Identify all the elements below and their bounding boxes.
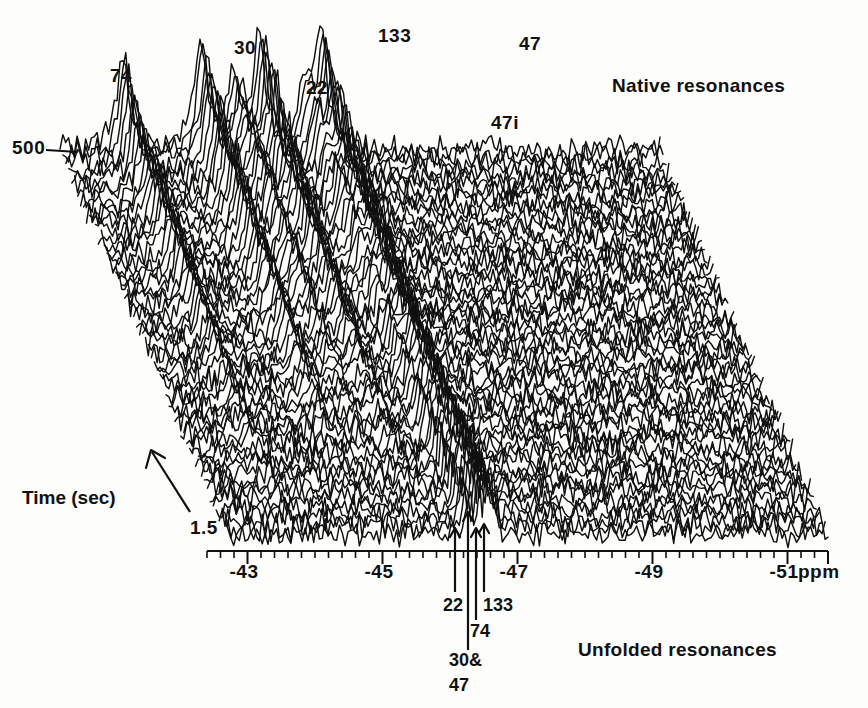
ppm-tick-label-49: -49	[635, 562, 664, 581]
native-peak-label-47i: 47i	[491, 113, 519, 132]
native-peak-label-22: 22	[306, 78, 328, 97]
time-max-tick-label: 500	[12, 138, 45, 157]
native-resonances-annotation: Native resonances	[612, 76, 785, 95]
unfolded-arrow-label-0: 22	[443, 596, 463, 614]
unfolded-arrow-label-4: 47	[449, 676, 469, 694]
native-peak-label-133: 133	[378, 26, 411, 45]
unfolded-resonances-annotation: Unfolded resonances	[578, 640, 777, 659]
ppm-tick-label-51: -51	[770, 562, 799, 581]
unfolded-arrow-label-2: 74	[470, 622, 490, 640]
ppm-tick-label-43: -43	[230, 562, 259, 581]
time-min-tick-label: 1.5	[190, 518, 218, 537]
axis-and-arrows-overlay	[0, 0, 868, 708]
native-peak-label-74: 74	[110, 66, 132, 85]
ppm-tick-label-45: -45	[365, 562, 394, 581]
ppm-tick-label-47: -47	[500, 562, 529, 581]
time-axis-label: Time (sec)	[22, 488, 116, 507]
unfolded-arrow-label-3: 30&	[449, 651, 482, 669]
ppm-unit-label: ppm	[798, 562, 840, 581]
native-peak-label-47: 47	[519, 34, 541, 53]
nmr-stacked-plot-figure: 7430221334747i 221337430&47 Native reson…	[0, 0, 868, 708]
unfolded-arrow-label-1: 133	[483, 596, 513, 614]
native-peak-label-30: 30	[234, 38, 256, 57]
